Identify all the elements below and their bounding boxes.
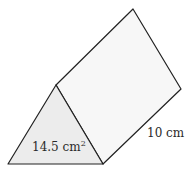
triangular-prism-diagram: 14.5 cm2 10 cm: [0, 0, 192, 171]
area-exponent: 2: [81, 139, 86, 148]
length-label: 10 cm: [147, 126, 185, 140]
face-area-label: 14.5 cm2: [32, 139, 86, 154]
